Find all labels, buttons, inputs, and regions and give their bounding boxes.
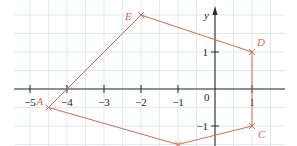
origin-label: 0 [204,91,210,103]
vertex-A: A [36,95,52,111]
vertex-C: C [249,123,266,140]
grid [14,0,285,146]
x-tick-label: −2 [135,96,147,108]
vertex-label: D [256,36,265,48]
vertex-label: C [258,128,266,140]
coordinate-plane: y 0 −5−4−3−2−11 1−1 AEDC [0,0,297,146]
x-tick-label: −4 [61,96,73,108]
vertex-label: E [124,10,132,22]
polygon-AEDCB [49,15,253,145]
x-tick-label: −5 [24,96,36,108]
x-tick-label: −1 [172,96,184,108]
vertex-label: A [36,95,44,107]
y-tick-label: 1 [203,46,209,58]
y-axis-arrow-icon [213,6,218,15]
x-tick-label: −3 [98,96,110,108]
axes: y 0 [14,6,285,146]
y-tick-label: −1 [196,120,208,132]
y-axis-label: y [203,9,209,21]
